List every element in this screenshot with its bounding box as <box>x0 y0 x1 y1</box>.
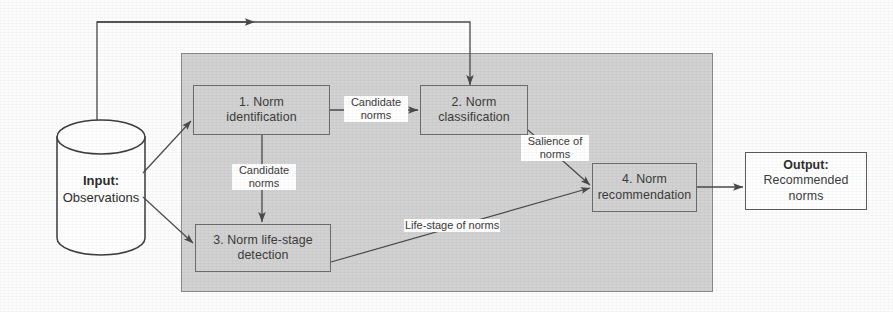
output-line1: Recommended <box>763 173 848 188</box>
edge-label-candidate-norms-1-line1: Candidate <box>345 96 407 109</box>
step-3-line1: 3. Norm life-stage <box>213 233 313 248</box>
edge-label-candidate-norms-2-line2: norms <box>233 177 295 190</box>
edge-label-candidate-norms-1-line2: norms <box>345 109 407 122</box>
step-1-line1: 1. Norm <box>226 95 296 110</box>
step-3-norm-life-stage-detection[interactable]: 3. Norm life-stage detection <box>195 224 331 272</box>
step-1-norm-identification[interactable]: 1. Norm identification <box>193 85 330 135</box>
output-line2: norms <box>789 189 824 204</box>
edge-label-salience-of-norms-line1: Salience of <box>522 135 588 148</box>
edge-label-candidate-norms-2: Candidate norms <box>232 164 296 190</box>
step-1-line2: identification <box>226 110 296 125</box>
edge-label-candidate-norms-2-line1: Candidate <box>233 164 295 177</box>
step-2-line2: classification <box>438 110 510 125</box>
step-4-norm-recommendation[interactable]: 4. Norm recommendation <box>592 163 697 212</box>
step-2-norm-classification[interactable]: 2. Norm classification <box>420 85 528 135</box>
edge-label-life-stage-of-norms-text: Life-stage of norms <box>405 219 499 231</box>
step-3-line2: detection <box>213 248 313 263</box>
input-label: Input: Observations <box>31 173 171 207</box>
edge-label-salience-of-norms: Salience of norms <box>521 135 589 161</box>
input-subtitle: Observations <box>31 190 171 207</box>
step-2-line1: 2. Norm <box>438 95 510 110</box>
input-title: Input: <box>31 173 171 190</box>
diagram-canvas: Input: Observations 1. Norm identificati… <box>0 0 893 312</box>
edge-label-life-stage-of-norms: Life-stage of norms <box>404 219 500 232</box>
step-4-line2: recommendation <box>598 188 692 203</box>
output-title: Output: <box>783 158 828 173</box>
edge-label-salience-of-norms-line2: norms <box>522 148 588 161</box>
output-box[interactable]: Output: Recommended norms <box>745 152 867 210</box>
edge-label-candidate-norms-1: Candidate norms <box>344 96 408 122</box>
step-4-line1: 4. Norm <box>598 172 692 187</box>
